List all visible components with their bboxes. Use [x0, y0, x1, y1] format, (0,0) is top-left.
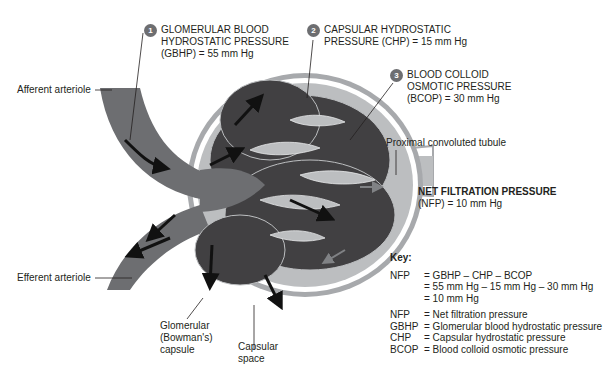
- def-text: = Net filtration pressure: [424, 309, 602, 321]
- def-term: BCOP: [390, 344, 424, 356]
- chp-line-1: CAPSULAR HYDROSTATIC: [324, 24, 467, 36]
- proximal-tubule-label: Proximal convoluted tubule: [386, 137, 506, 149]
- key-equation: NFP= GBHP – CHP – BCOP = 55 mm Hg – 15 m…: [390, 270, 602, 356]
- afferent-arteriole-shape: [100, 88, 210, 200]
- capsule-line-3: capsule: [160, 344, 212, 356]
- def-text: = Blood colloid osmotic pressure: [424, 344, 602, 356]
- capsule-line-1: Glomerular: [160, 320, 212, 332]
- bcop-line-1: BLOOD COLLOID: [407, 69, 511, 81]
- key-legend: Key: NFP= GBHP – CHP – BCOP = 55 mm Hg –…: [390, 252, 602, 355]
- chp-label: 2 CAPSULAR HYDROSTATIC PRESSURE (CHP) = …: [324, 24, 467, 48]
- space-line-2: space: [238, 353, 278, 365]
- def-term: NFP: [390, 309, 424, 321]
- gbhp-line-3: (GBHP) = 55 mm Hg: [161, 48, 289, 60]
- def-text: = Capsular hydrostatic pressure: [424, 332, 602, 344]
- afferent-arteriole-label: Afferent arteriole: [17, 84, 91, 96]
- capsular-space-label: Capsular space: [238, 341, 278, 365]
- space-line-1: Capsular: [238, 341, 278, 353]
- number-badge-1: 1: [144, 24, 157, 37]
- def-term: CHP: [390, 332, 424, 344]
- bcop-line-2: OSMOTIC PRESSURE: [407, 81, 511, 93]
- nfp-value: (NFP) = 10 mm Hg: [418, 198, 557, 210]
- bowmans-capsule-label: Glomerular (Bowman's) capsule: [160, 320, 212, 356]
- def-text: = Glomerular blood hydrostatic pressure: [424, 321, 602, 333]
- nfp-title: NET FILTRATION PRESSURE: [418, 186, 557, 198]
- eq-expr: = 55 mm Hg – 15 mm Hg – 30 mm Hg: [424, 281, 602, 293]
- gbhp-line-1: GLOMERULAR BLOOD: [161, 24, 289, 36]
- eq-term: [390, 281, 424, 293]
- gbhp-line-2: HYDROSTATIC PRESSURE: [161, 36, 289, 48]
- nfp-label: NET FILTRATION PRESSURE (NFP) = 10 mm Hg: [418, 186, 557, 210]
- gbhp-label: 1 GLOMERULAR BLOOD HYDROSTATIC PRESSURE …: [161, 24, 289, 60]
- number-badge-3: 3: [390, 69, 403, 82]
- efferent-arteriole-label: Efferent arteriole: [17, 272, 91, 284]
- number-badge-2: 2: [307, 24, 320, 37]
- capsule-line-2: (Bowman's): [160, 332, 212, 344]
- bcop-line-3: (BCOP) = 30 mm Hg: [407, 93, 511, 105]
- bcop-label: 3 BLOOD COLLOID OSMOTIC PRESSURE (BCOP) …: [407, 69, 511, 105]
- eq-expr: = 10 mm Hg: [424, 293, 602, 305]
- eq-term: [390, 293, 424, 305]
- eq-expr: = GBHP – CHP – BCOP: [424, 270, 602, 282]
- chp-line-2: PRESSURE (CHP) = 15 mm Hg: [324, 36, 467, 48]
- eq-term: NFP: [390, 270, 424, 282]
- key-title: Key:: [390, 252, 602, 264]
- efferent-arteriole-shape: [107, 205, 210, 290]
- def-term: GBHP: [390, 321, 424, 333]
